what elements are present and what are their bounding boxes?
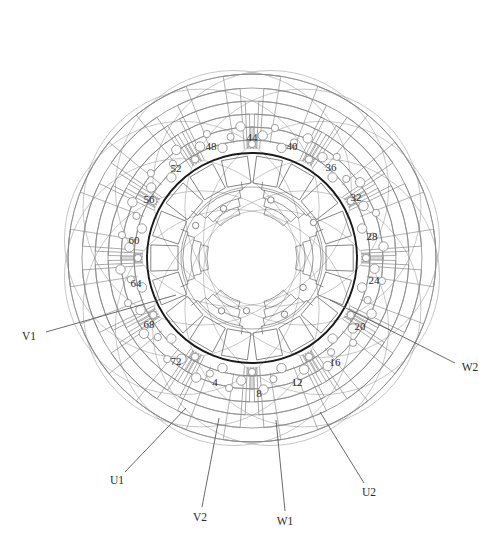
coil-connection-node — [203, 130, 210, 137]
inner-coil-step — [262, 182, 263, 190]
inner-connection-node — [218, 308, 224, 314]
terminal-lead-line-u2 — [320, 412, 364, 483]
end-winding-arc — [178, 411, 327, 428]
end-winding-leg — [361, 263, 409, 265]
end-winding-leg — [95, 251, 143, 253]
slot-number-label-48: 48 — [206, 140, 217, 152]
inner-coil-arc — [199, 243, 201, 274]
end-winding-arc — [180, 397, 325, 415]
coil-connection-node — [364, 297, 371, 304]
coil-connection-node — [154, 334, 161, 341]
slot-number-label-52: 52 — [171, 162, 182, 174]
end-winding-arc — [95, 186, 113, 331]
coil-connection-node — [328, 349, 335, 356]
inner-coil-step — [238, 199, 240, 207]
coil-connection-node — [167, 334, 176, 343]
coil-connection-node — [372, 209, 379, 216]
inner-connection-node — [220, 205, 226, 211]
coil-connection-node — [195, 142, 204, 151]
coil-connection-node — [362, 254, 369, 261]
coil-connection-node — [328, 334, 337, 343]
end-winding-outer-leg — [223, 373, 234, 440]
coil-connection-node — [227, 133, 234, 140]
inner-coil-step — [238, 310, 240, 318]
coil-connection-node — [147, 183, 156, 192]
coil-connection-node — [277, 363, 286, 372]
coil-group-slot-box — [326, 245, 353, 271]
inner-coil-step — [241, 326, 242, 334]
slot-number-label-40: 40 — [287, 140, 298, 152]
inner-coil-step — [264, 199, 266, 207]
slot-number-label-60: 60 — [129, 234, 140, 246]
coil-connection-node — [134, 254, 141, 261]
slot-number-label-56: 56 — [144, 193, 155, 205]
coil-group-slot-box — [317, 211, 351, 244]
slot-number-label-68: 68 — [144, 318, 155, 330]
inner-coil-step — [207, 294, 213, 300]
coil-connection-node — [270, 376, 277, 383]
end-winding-arc — [391, 186, 409, 331]
end-winding-arc — [82, 184, 99, 333]
coil-connection-node — [236, 122, 245, 131]
inner-connection-node — [281, 311, 287, 317]
slot-number-label-64: 64 — [131, 277, 142, 289]
inner-coil-step — [194, 274, 202, 276]
terminal-label-v1: V1 — [22, 330, 36, 342]
inner-coil-step — [241, 182, 242, 190]
inner-coil-arc — [263, 298, 298, 318]
inner-coil-arc — [310, 238, 314, 279]
inner-coil-arc — [191, 238, 195, 279]
inner-coil-step — [303, 274, 311, 276]
slot-number-label-24: 24 — [369, 274, 380, 286]
terminal-label-u2: U2 — [362, 486, 376, 498]
inner-coil-step — [264, 310, 266, 318]
coil-connection-node — [305, 156, 312, 163]
slot-number-label-20: 20 — [355, 320, 366, 332]
coil-connection-node — [299, 365, 308, 374]
end-winding-crossover-circle — [65, 121, 301, 357]
inner-coil-step — [207, 216, 213, 222]
coil-connection-node — [128, 198, 137, 207]
coil-connection-node — [172, 145, 181, 154]
end-winding-outer-leg — [70, 229, 137, 240]
slot-number-label-44: 44 — [247, 131, 258, 143]
coil-group-slot-box — [151, 245, 178, 271]
slot-number-label-72: 72 — [171, 355, 182, 367]
inner-coil-arc — [213, 294, 240, 310]
coil-connection-node — [303, 134, 312, 143]
inner-connection-node — [310, 219, 316, 225]
coil-connection-node — [118, 232, 125, 239]
end-winding-crossover-circle — [204, 159, 440, 395]
slot-number-label-28: 28 — [367, 230, 378, 242]
coil-connection-node — [357, 283, 366, 292]
terminal-label-u1: U1 — [110, 474, 124, 486]
coil-connection-node — [116, 265, 125, 274]
coil-connection-node — [379, 242, 388, 251]
coil-connection-node — [191, 353, 198, 360]
inner-coil-arc — [296, 247, 297, 270]
coil-connection-node — [271, 124, 278, 131]
inner-coil-step — [262, 326, 263, 334]
coil-connection-node — [226, 384, 233, 391]
end-winding-outer-leg — [270, 76, 281, 143]
winding-diagram-canvas: 4812162024283236404448525660646872V1W2U1… — [0, 0, 504, 551]
end-winding-arc — [180, 101, 325, 119]
coil-connection-node — [167, 173, 176, 182]
terminal-lead-line-w1 — [276, 420, 285, 511]
coil-connection-node — [277, 143, 286, 152]
stator-bore-circle — [147, 153, 357, 363]
slot-ring-inner — [181, 187, 323, 329]
end-winding-arc — [405, 184, 422, 333]
slot-number-label-16: 16 — [330, 356, 341, 368]
inner-coil-step — [291, 294, 297, 300]
inner-coil-arc — [264, 206, 291, 222]
inner-coil-arc — [264, 294, 291, 310]
coil-connection-node — [305, 353, 312, 360]
coil-connection-node — [328, 173, 337, 182]
coil-connection-node — [343, 175, 350, 182]
coil-group-slot-box — [317, 272, 351, 305]
terminal-label-v2: V2 — [193, 511, 207, 523]
coil-connection-node — [333, 153, 340, 160]
inner-coil-step — [310, 278, 318, 281]
terminal-label-w1: W1 — [277, 515, 294, 527]
